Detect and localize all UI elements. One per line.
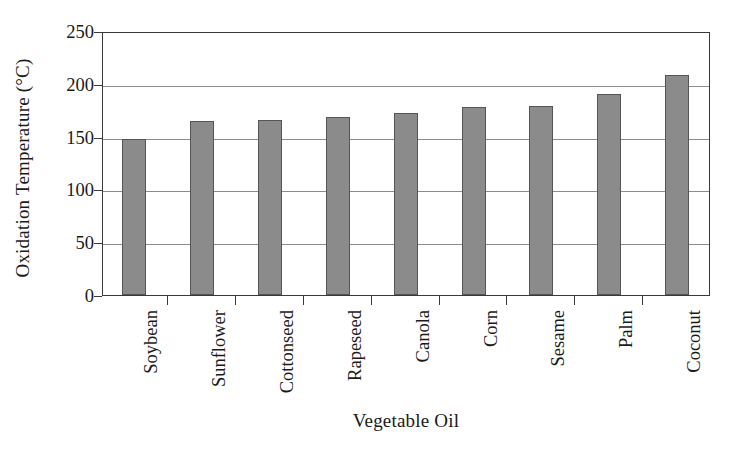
y-tick-label-150: 150: [30, 128, 94, 147]
x-tick-mark-7: [574, 296, 575, 305]
x-tick-mark-4: [371, 296, 372, 305]
y-tick-label-250: 250: [30, 23, 94, 42]
x-tick-mark-2: [235, 296, 236, 305]
bar-chart-figure: Oxidation Temperature (°C) 0501001502002…: [0, 0, 734, 460]
y-tick-mark-100: [94, 190, 102, 191]
y-tick-mark-50: [94, 243, 102, 244]
y-tick-label-200: 200: [30, 76, 94, 95]
bar-cottonseed: [258, 120, 282, 295]
y-tick-mark-250: [94, 32, 102, 33]
y-tick-label-0: 0: [30, 287, 94, 306]
y-tick-mark-0: [94, 296, 102, 297]
gridline-200: [103, 86, 709, 87]
bar-corn: [462, 107, 486, 295]
x-category-label-cottonseed: Cottonseed: [277, 310, 297, 460]
plot-area: [102, 32, 710, 296]
x-axis-title: Vegetable Oil: [102, 410, 710, 432]
x-tick-mark-6: [506, 296, 507, 305]
x-tick-mark-1: [167, 296, 168, 305]
x-tick-mark-5: [439, 296, 440, 305]
x-category-label-canola: Canola: [413, 310, 433, 460]
bar-soybean: [122, 139, 146, 295]
bar-canola: [394, 113, 418, 295]
bar-palm: [597, 94, 621, 295]
x-tick-mark-8: [642, 296, 643, 305]
y-tick-mark-150: [94, 138, 102, 139]
y-tick-label-100: 100: [30, 181, 94, 200]
bar-rapeseed: [326, 117, 350, 295]
x-category-label-sunflower: Sunflower: [209, 310, 229, 460]
x-category-label-palm: Palm: [616, 310, 636, 460]
x-category-label-sesame: Sesame: [548, 310, 568, 460]
x-category-label-coconut: Coconut: [684, 310, 704, 460]
bar-sunflower: [190, 121, 214, 295]
y-tick-mark-200: [94, 85, 102, 86]
y-axis-tick-labels: 050100150200250: [22, 0, 94, 460]
x-tick-mark-3: [303, 296, 304, 305]
x-category-label-rapeseed: Rapeseed: [345, 310, 365, 460]
x-category-label-soybean: Soybean: [141, 310, 161, 460]
bar-sesame: [529, 106, 553, 295]
y-tick-label-50: 50: [30, 234, 94, 253]
bar-coconut: [665, 75, 689, 295]
x-category-label-corn: Corn: [481, 310, 501, 460]
